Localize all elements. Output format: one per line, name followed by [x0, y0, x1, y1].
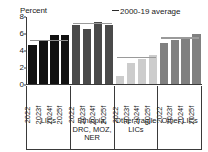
group-name-label: LICs: [27, 116, 70, 149]
y-tick-mark: [24, 34, 26, 35]
average-line: [30, 40, 69, 41]
bar-groups: [27, 17, 202, 84]
bar-group: [27, 17, 71, 84]
bar[interactable]: [160, 43, 168, 84]
bar[interactable]: [149, 55, 157, 84]
bar[interactable]: [171, 40, 179, 84]
bar-slot: [125, 17, 136, 84]
bar[interactable]: [105, 25, 113, 84]
x-axis-line: [26, 84, 202, 85]
bar[interactable]: [181, 38, 189, 84]
bar[interactable]: [138, 59, 146, 84]
y-axis-unit-label: Percent: [20, 6, 47, 15]
bar-slot: [27, 17, 38, 84]
average-line: [117, 57, 156, 58]
bar-slot: [93, 17, 104, 84]
legend: 2000-19 average: [112, 7, 181, 16]
y-tick-mark: [24, 51, 26, 52]
bar-slot: [104, 17, 115, 84]
bar-slot: [180, 17, 191, 84]
bar-slot: [71, 17, 82, 84]
bar[interactable]: [72, 25, 80, 84]
group-name-label: Other LICs: [157, 116, 201, 149]
bar[interactable]: [192, 34, 200, 84]
group-name-band: LICsEthiopia, DRC, MOZ, NEROther fragile…: [26, 116, 202, 150]
bar-slot: [38, 17, 49, 84]
dashed-line-icon: [112, 10, 119, 11]
bar[interactable]: [61, 35, 69, 84]
y-tick-mark: [24, 17, 26, 18]
bar-slot: [136, 17, 147, 84]
bar[interactable]: [39, 40, 47, 84]
bar-slot: [191, 17, 202, 84]
bar[interactable]: [28, 45, 36, 84]
bar-slot: [115, 17, 126, 84]
x-group: 20222023f2024f2025f: [27, 86, 70, 116]
bar-slot: [60, 17, 71, 84]
bar-group: [71, 17, 115, 84]
x-axis-category-band: 20222023f2024f2025f20222023f2024f2025f20…: [26, 86, 202, 116]
bar-slot: [169, 17, 180, 84]
plot-area: 02468: [26, 17, 202, 85]
bar[interactable]: [83, 29, 91, 84]
y-tick-mark: [24, 68, 26, 69]
bar-chart: Percent 2000-19 average 02468 20222023f2…: [0, 0, 208, 152]
bar-slot: [147, 17, 158, 84]
group-name-label: Other fragile LICs: [114, 116, 158, 149]
bar-group: [115, 17, 159, 84]
bar[interactable]: [127, 63, 135, 84]
group-name-label: Ethiopia, DRC, MOZ, NER: [70, 116, 114, 149]
bar[interactable]: [94, 22, 102, 84]
average-line: [161, 37, 200, 38]
bar-slot: [82, 17, 93, 84]
x-group: 20222023f2024f2025f: [157, 86, 201, 116]
bar[interactable]: [50, 35, 58, 84]
average-line: [73, 23, 112, 24]
x-group: 20222023f2024f2025f: [70, 86, 114, 116]
bar-slot: [158, 17, 169, 84]
bar-slot: [49, 17, 60, 84]
x-group: 20222023f2024f2025f: [114, 86, 158, 116]
bar[interactable]: [116, 76, 124, 84]
x-tick-cell: 2025f: [190, 86, 201, 116]
legend-label: 2000-19 average: [120, 7, 181, 16]
bar-group: [158, 17, 202, 84]
